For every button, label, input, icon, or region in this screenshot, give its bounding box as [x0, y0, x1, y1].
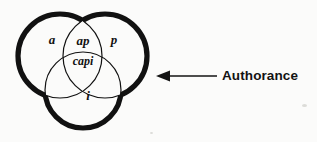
left-arrow-head	[156, 71, 170, 82]
venn-outer-boundary	[18, 14, 147, 128]
callout-label: Authorance	[222, 68, 298, 83]
venn-region-label-i: i	[86, 88, 90, 103]
venn-diagram: a ap p capi i Authorance	[0, 0, 317, 142]
scan-speck	[302, 104, 307, 107]
venn-region-label-p: p	[110, 32, 118, 47]
scan-speck	[150, 132, 153, 134]
callout-arrow	[156, 71, 217, 82]
figure-screenshot: a ap p capi i Authorance	[0, 0, 317, 142]
venn-region-label-a: a	[49, 32, 56, 47]
venn-region-label-ap: ap	[77, 33, 91, 48]
venn-inner-arcs	[18, 14, 147, 128]
venn-region-label-capi: capi	[73, 54, 94, 68]
